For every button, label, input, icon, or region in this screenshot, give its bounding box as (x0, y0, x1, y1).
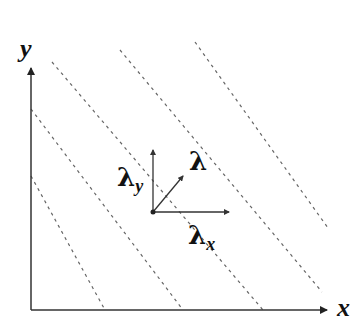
wavefront-line-2 (31, 109, 183, 310)
lambda-x-base: λ (188, 220, 206, 250)
diagram-canvas (0, 0, 364, 331)
wavefront-line-3 (52, 62, 263, 310)
x-axis-label: x (337, 295, 350, 321)
lambda-label: λ (189, 148, 207, 174)
lambda-x-subscript: x (206, 234, 215, 254)
wavefront-line-5 (195, 42, 328, 228)
wavefront-lines (31, 42, 328, 310)
wavefront-line-1 (31, 176, 105, 310)
wavefront-line-4 (120, 50, 322, 292)
lambda-y-label: λy (117, 164, 143, 190)
lambda-vector (153, 176, 183, 212)
vector-origin (151, 210, 156, 215)
lambda-x-label: λx (188, 222, 215, 248)
lambda-y-base: λ (117, 162, 135, 192)
lambda-y-subscript: y (135, 176, 143, 196)
y-axis-label: y (20, 36, 32, 62)
